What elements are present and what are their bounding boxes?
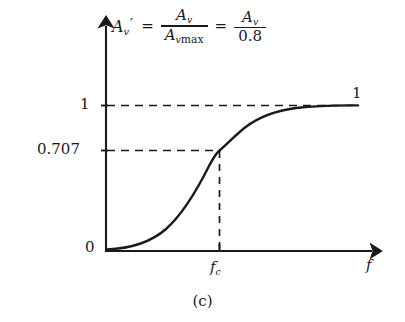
curve-asymptote-label: 1 xyxy=(352,86,362,101)
gain-formula: Av′ = Av Avmax = Av 0.8 xyxy=(112,8,266,46)
fraction-2-numerator-symbol: A xyxy=(242,8,253,26)
frequency-response-figure: Av′ = Av Avmax = Av 0.8 1 0.707 0 fc f 1… xyxy=(0,0,405,322)
equals-sign-second: = xyxy=(208,19,235,34)
x-axis-label: f xyxy=(366,258,372,273)
fraction-1-numerator-subscript: v xyxy=(187,14,192,25)
y-axis-tick-label-0707: 0.707 xyxy=(37,142,80,157)
equals-sign-first: = xyxy=(134,19,161,34)
origin-label: 0 xyxy=(85,240,95,255)
fraction-2-numerator-subscript: v xyxy=(253,15,258,26)
fraction-1-numerator: Av xyxy=(172,8,196,25)
y-axis-tick-label-unity: 1 xyxy=(80,97,90,112)
formula-lhs-prime: ′ xyxy=(129,15,133,33)
figure-caption: (c) xyxy=(0,292,405,310)
formula-lhs: Av′ xyxy=(112,17,134,37)
fraction-normalized-gain: Av Avmax xyxy=(161,8,208,46)
fraction-2-denominator: 0.8 xyxy=(234,28,266,44)
fraction-1-numerator-symbol: A xyxy=(176,6,187,24)
fraction-2-numerator: Av xyxy=(238,10,262,27)
fraction-1-denominator: Avmax xyxy=(161,27,208,46)
fraction-gain-over-08: Av 0.8 xyxy=(234,10,266,45)
plot-canvas xyxy=(0,0,405,322)
response-curve xyxy=(107,105,358,249)
fc-subscript: c xyxy=(216,266,221,277)
formula-lhs-symbol: A xyxy=(112,17,124,36)
fraction-1-denominator-subsubscript: max xyxy=(181,33,204,46)
fraction-1-denominator-symbol: A xyxy=(165,26,176,44)
x-axis-tick-label-fc: fc xyxy=(210,260,221,276)
